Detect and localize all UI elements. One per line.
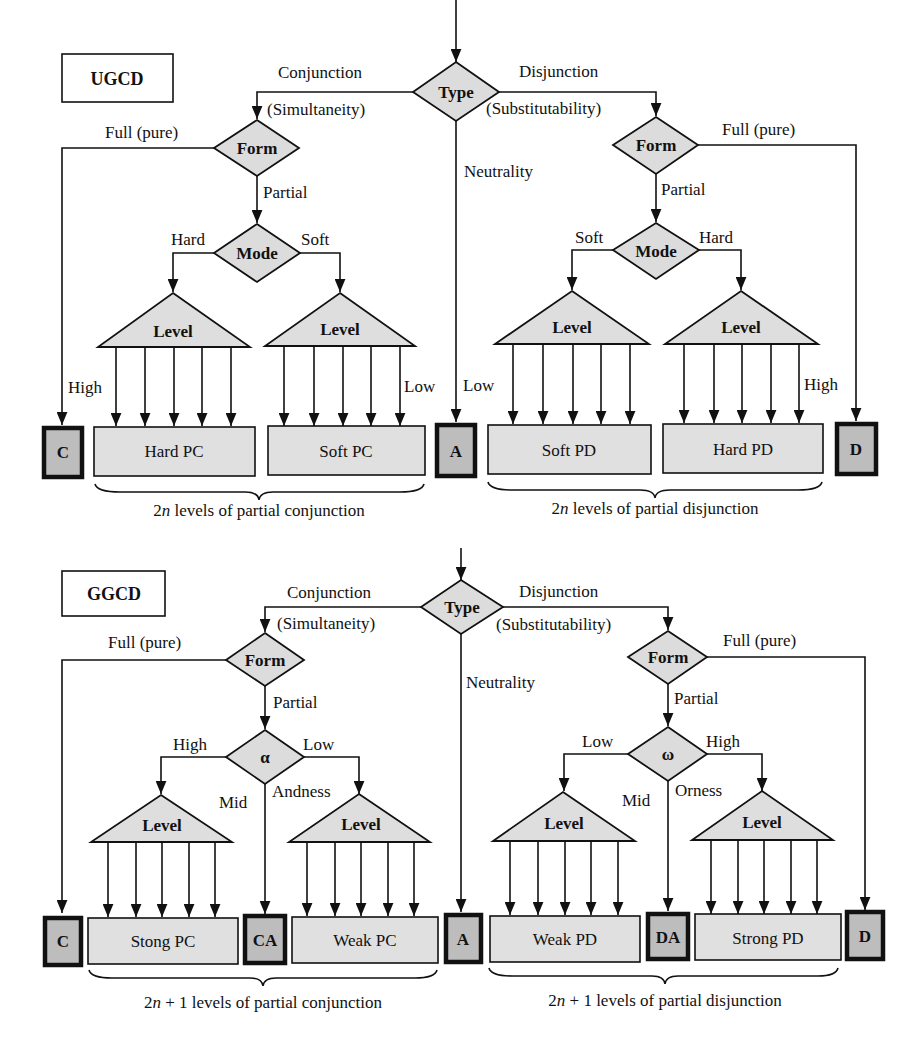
weak-pd-label: Weak PD	[533, 930, 597, 949]
neutrality-label: Neutrality	[466, 673, 535, 692]
ugcd-diagram: UGCD Type Conjunction (Simultaneity) Dis…	[44, 0, 876, 520]
level-arrows-soft-pd	[513, 344, 630, 424]
level-label: Level	[742, 813, 782, 832]
alpha-mid-label: Mid	[219, 793, 248, 812]
terminal-d-label: D	[859, 927, 871, 946]
right-form-label: Form	[636, 136, 677, 155]
strong-pd-label: Strong PD	[732, 929, 803, 948]
alpha-high-edge	[161, 757, 226, 794]
hard-pd-label: Hard PD	[713, 440, 773, 459]
disjunction-label: Disjunction	[519, 62, 599, 81]
right-partial-label: Partial	[661, 180, 706, 199]
level-label: Level	[142, 816, 182, 835]
alpha-low-label: Low	[303, 735, 335, 754]
terminal-d-label: D	[850, 440, 862, 459]
terminal-a-label: A	[450, 442, 463, 461]
right-hard-edge	[699, 250, 741, 290]
left-full-edge	[62, 660, 226, 913]
brace-conjunction-text: 2n levels of partial conjunction	[153, 501, 365, 520]
level-label: Level	[320, 320, 360, 339]
substitutability-label: (Substitutability)	[496, 615, 611, 634]
terminal-a-label: A	[457, 930, 470, 949]
substitutability-label: (Substitutability)	[486, 99, 601, 118]
conjunction-label: Conjunction	[287, 583, 372, 602]
level-arrows-weak-pd	[510, 841, 618, 915]
disjunction-label: Disjunction	[519, 582, 599, 601]
right-full-label: Full (pure)	[722, 120, 795, 139]
left-hard-edge	[173, 253, 214, 292]
left-partial-label: Partial	[263, 183, 308, 202]
brace-conjunction	[89, 970, 437, 986]
terminal-ca-label: CA	[253, 931, 278, 950]
omega-label: ω	[662, 745, 674, 764]
left-partial-label: Partial	[273, 693, 318, 712]
soft-pd-label: Soft PD	[542, 441, 596, 460]
low-left-label: Low	[404, 377, 436, 396]
omega-mid-label: Mid	[622, 791, 651, 810]
gcd-diagram: UGCD Type Conjunction (Simultaneity) Dis…	[0, 0, 922, 1042]
level-label: Level	[341, 815, 381, 834]
brace-disjunction-text: 2n levels of partial disjunction	[552, 499, 759, 518]
orness-label: Orness	[675, 781, 722, 800]
terminal-c-label: C	[57, 443, 69, 462]
level-arrows-hard-pd	[684, 344, 799, 423]
level-arrows-strong-pd	[711, 840, 817, 914]
ugcd-title: UGCD	[91, 69, 144, 89]
ggcd-title: GGCD	[87, 584, 141, 604]
level-label: Level	[721, 318, 761, 337]
alpha-high-label: High	[173, 735, 208, 754]
right-soft-label: Soft	[575, 228, 604, 247]
terminal-c-label: C	[57, 932, 69, 951]
right-full-edge	[707, 657, 865, 910]
ggcd-diagram: GGCD Type Conjunction (Simultaneity) Dis…	[45, 548, 883, 1012]
weak-pc-label: Weak PC	[333, 931, 396, 950]
soft-pc-label: Soft PC	[319, 442, 372, 461]
left-soft-label: Soft	[301, 230, 330, 249]
terminal-da-label: DA	[656, 928, 681, 947]
andness-label: Andness	[272, 782, 331, 801]
omega-high-label: High	[706, 732, 741, 751]
level-label: Level	[552, 318, 592, 337]
right-form-label: Form	[648, 648, 689, 667]
high-right-label: High	[804, 375, 839, 394]
right-mode-label: Mode	[635, 242, 677, 261]
brace-disjunction	[488, 482, 822, 498]
neutrality-label: Neutrality	[464, 162, 533, 181]
level-label: Level	[544, 814, 584, 833]
conjunction-label: Conjunction	[278, 63, 363, 82]
low-right-label: Low	[463, 376, 495, 395]
hard-pc-label: Hard PC	[144, 442, 203, 461]
right-partial-label: Partial	[674, 689, 719, 708]
level-label: Level	[153, 322, 193, 341]
simultaneity-label: (Simultaneity)	[277, 614, 375, 633]
brace-disjunction-text: 2n + 1 levels of partial disjunction	[548, 991, 782, 1010]
level-arrows-weak-pc	[307, 842, 414, 916]
right-hard-label: Hard	[699, 228, 733, 247]
right-full-label: Full (pure)	[723, 631, 796, 650]
type-label: Type	[438, 83, 474, 102]
left-full-label: Full (pure)	[108, 633, 181, 652]
level-arrows-soft-pc	[284, 346, 400, 426]
brace-conjunction	[95, 484, 424, 500]
type-label: Type	[444, 598, 480, 617]
left-form-label: Form	[245, 651, 286, 670]
strong-pc-label: Stong PC	[131, 932, 196, 951]
level-arrows-hard-pc	[116, 347, 231, 426]
high-left-label: High	[68, 378, 103, 397]
level-arrows-strong-pc	[108, 842, 215, 917]
left-soft-edge	[300, 253, 340, 292]
brace-disjunction	[489, 968, 838, 984]
omega-low-edge	[564, 754, 628, 791]
simultaneity-label: (Simultaneity)	[267, 100, 365, 119]
brace-conjunction-text: 2n + 1 levels of partial conjunction	[144, 993, 383, 1012]
left-hard-label: Hard	[171, 230, 205, 249]
left-form-label: Form	[237, 139, 278, 158]
left-mode-label: Mode	[236, 244, 278, 263]
left-full-label: Full (pure)	[105, 123, 178, 142]
right-soft-edge	[572, 250, 613, 290]
omega-low-label: Low	[582, 732, 614, 751]
alpha-label: α	[260, 748, 270, 767]
